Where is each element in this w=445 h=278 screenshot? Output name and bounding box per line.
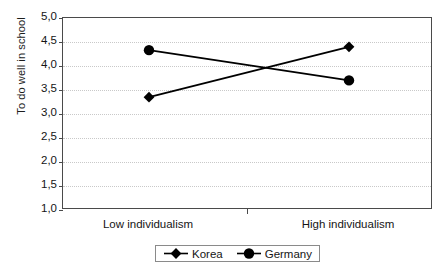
legend-entry-korea[interactable]: Korea bbox=[163, 248, 223, 260]
legend-label: Korea bbox=[192, 248, 223, 260]
data-point-marker-circle bbox=[144, 45, 154, 55]
y-axis-tick-label: 2,0 bbox=[24, 155, 57, 166]
x-axis-tick-label-high-individualism: High individualism bbox=[274, 218, 422, 231]
legend: KoreaGermany bbox=[155, 245, 320, 262]
line-chart: To do well in school 5,04,54,03,53,02,52… bbox=[0, 0, 445, 278]
y-axis-tick-label: 2,5 bbox=[24, 131, 57, 142]
data-point-marker-circle bbox=[344, 75, 354, 85]
y-axis-tick-label: 4,5 bbox=[24, 35, 57, 46]
y-axis-tick-label: 3,5 bbox=[24, 83, 57, 94]
legend-label: Germany bbox=[265, 248, 312, 260]
data-series-layer bbox=[63, 18, 433, 210]
y-axis-tick-label: 4,0 bbox=[24, 59, 57, 70]
data-series-korea bbox=[144, 41, 355, 102]
plot-area bbox=[62, 17, 432, 209]
data-point-marker-diamond bbox=[144, 92, 155, 103]
legend-entry-germany[interactable]: Germany bbox=[236, 248, 312, 260]
data-point-marker-diamond bbox=[344, 41, 355, 52]
x-axis-center-tickmark bbox=[247, 209, 248, 214]
legend-marker-diamond-icon bbox=[163, 248, 189, 259]
y-axis-tickmark bbox=[59, 210, 63, 211]
y-axis-tick-label: 1,0 bbox=[24, 203, 57, 214]
data-series-germany bbox=[144, 45, 354, 86]
y-axis-tick-labels: 5,04,54,03,53,02,52,01,51,0 bbox=[24, 0, 57, 278]
y-axis-tick-label: 3,0 bbox=[24, 107, 57, 118]
y-axis-tick-label: 5,0 bbox=[24, 11, 57, 22]
y-axis-tick-label: 1,5 bbox=[24, 179, 57, 190]
x-axis-tick-label-low-individualism: Low individualism bbox=[74, 218, 222, 231]
legend-marker-circle-icon bbox=[236, 248, 262, 259]
